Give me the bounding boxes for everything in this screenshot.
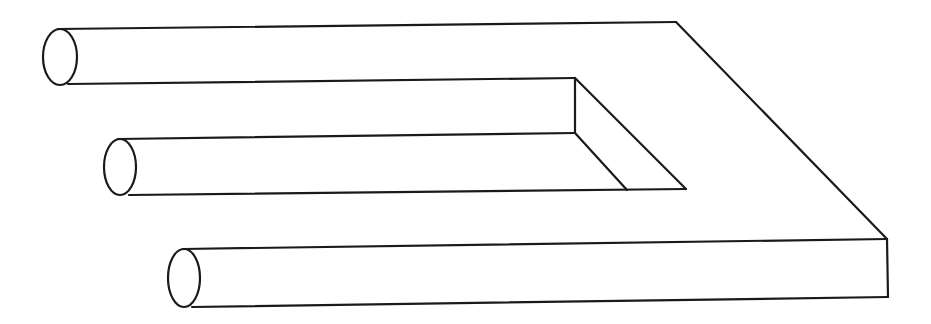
outer-diagonal-edge [676, 22, 887, 239]
trident-drawing [0, 0, 931, 324]
impossible-trident-figure: Impossible trident (blivet) [0, 0, 931, 324]
middle-prong-upper-edge [118, 133, 575, 139]
middle-prong [104, 133, 686, 195]
inner-diagonal-outer [575, 78, 686, 189]
outer-vertical-edge [887, 239, 888, 297]
bottom-prong [168, 239, 888, 307]
top-prong-end-ellipse [43, 29, 77, 85]
inner-block [575, 78, 686, 190]
bottom-prong-upper-edge [183, 239, 887, 249]
middle-prong-lower-edge [129, 189, 686, 195]
bottom-prong-lower-edge [192, 297, 888, 307]
inner-diagonal-inner [575, 133, 627, 190]
top-prong-upper-edge [58, 22, 676, 29]
bottom-prong-end-ellipse [168, 249, 200, 307]
outer-frame [676, 22, 888, 297]
top-prong-lower-edge [68, 78, 575, 84]
middle-prong-end-ellipse [104, 139, 136, 195]
top-prong [43, 22, 676, 85]
